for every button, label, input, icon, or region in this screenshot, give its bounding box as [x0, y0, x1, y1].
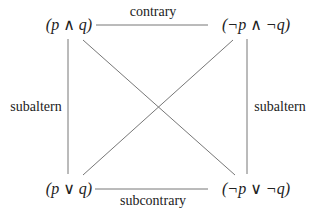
label-contrary: contrary — [130, 4, 177, 20]
node-top-right: (¬p ∧ ¬q) — [222, 15, 290, 34]
label-subcontrary: subcontrary — [120, 193, 186, 209]
label-subaltern-left: subaltern — [10, 99, 61, 115]
node-bottom-left: (p ∨ q) — [46, 179, 92, 198]
label-subaltern-right: subaltern — [254, 99, 305, 115]
node-bottom-right: (¬p ∨ ¬q) — [222, 179, 290, 198]
node-top-left: (p ∧ q) — [46, 15, 92, 34]
